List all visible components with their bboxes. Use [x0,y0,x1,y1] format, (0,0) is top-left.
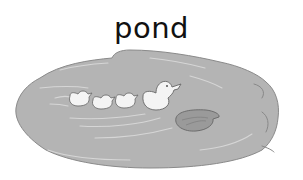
pond-illustration [0,0,303,180]
pond-water [16,50,279,168]
